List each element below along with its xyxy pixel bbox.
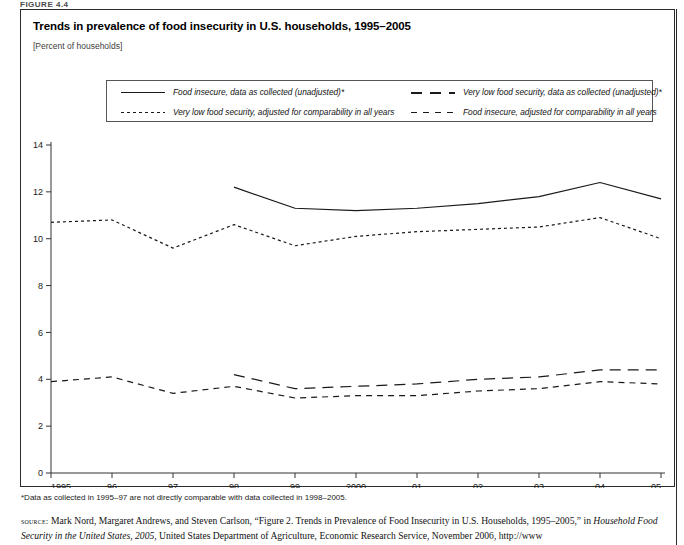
y-axis-tick-label: 8 [38,281,43,291]
y-axis-tick-label: 2 [38,421,43,431]
x-axis-tick-label: 97 [168,482,178,488]
figure-number-label: FIGURE 4.4 [20,0,69,8]
x-axis-tick-label: 96 [107,482,117,488]
x-axis-tick-label: 01 [412,482,422,488]
x-axis-tick-label: 05 [651,482,661,488]
x-axis-tick-label: 99 [290,482,300,488]
x-axis-tick-label: 2000 [346,482,366,488]
x-axis-tick-label: 1995 [51,482,71,488]
source-kicker: source: [21,516,49,526]
y-axis-tick-label: 0 [38,468,43,478]
x-axis-tick-label: 98 [229,482,239,488]
x-axis-tick-label: 04 [595,482,605,488]
y-axis-tick-label: 14 [33,140,43,150]
y-axis-tick-label: 6 [38,328,43,338]
series-line-0 [234,182,661,210]
series-line-1 [234,370,661,389]
page-right-rule [676,9,677,545]
source-text-part2: , United States Department of Agricultur… [154,530,542,541]
x-axis-tick-label: 03 [534,482,544,488]
plot-area: 1412108642019959697989920000102030405 [21,10,676,488]
x-axis-tick-label: 02 [473,482,483,488]
figure-frame: Trends in prevalence of food insecurity … [20,9,675,487]
chart-footnote: *Data as collected in 1995–97 are not di… [21,493,347,502]
source-note: source: Mark Nord, Margaret Andrews, and… [21,514,673,542]
y-axis-tick-label: 10 [33,234,43,244]
series-line-3 [51,377,661,398]
source-text-part1: Mark Nord, Margaret Andrews, and Steven … [49,515,594,526]
series-line-2 [51,218,661,248]
y-axis-tick-label: 4 [38,374,43,384]
line-chart-svg: 1412108642019959697989920000102030405 [21,10,676,488]
y-axis-tick-label: 12 [33,187,43,197]
